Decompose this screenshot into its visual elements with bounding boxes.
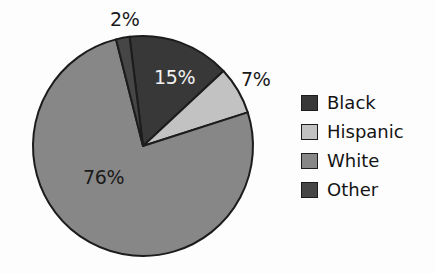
slice-label-black: 15% [154,66,195,88]
slice-label-white: 76% [83,166,124,188]
legend-item-label: Hispanic [327,123,404,141]
pie-chart-figure: 15% 7% 76% 2% Black Hispanic White Other [0,0,435,274]
legend-swatch-icon [301,182,318,198]
legend-item-white: White [301,146,431,175]
slice-label-other: 2% [110,8,140,30]
legend-item-label: Black [327,94,376,112]
chart-legend: Black Hispanic White Other [301,88,431,204]
slice-label-hispanic: 7% [241,68,271,90]
legend-item-label: White [327,152,379,170]
pie-slices [33,36,253,256]
legend-item-label: Other [327,181,378,199]
pie-plot-area: 15% 7% 76% 2% [0,0,290,274]
legend-item-hispanic: Hispanic [301,117,431,146]
legend-swatch-icon [301,124,318,140]
legend-swatch-icon [301,95,318,111]
legend-swatch-icon [301,153,318,169]
legend-item-black: Black [301,88,431,117]
pie-svg [0,0,290,274]
legend-item-other: Other [301,175,431,204]
